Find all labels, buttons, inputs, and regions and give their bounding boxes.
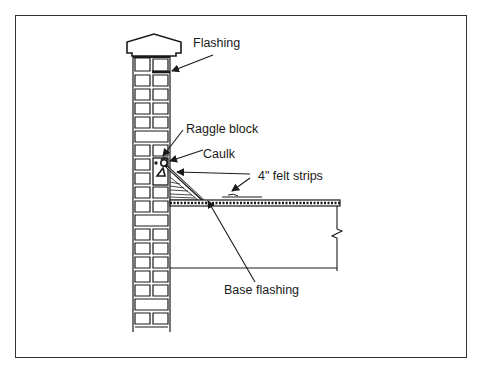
- roof-deck: [170, 200, 340, 206]
- leader-flashing: [172, 55, 213, 71]
- figure-frame: [16, 16, 467, 358]
- leader-base-flashing: [208, 201, 255, 282]
- leader-lines: [163, 55, 255, 282]
- leader-felt-strips-1: [177, 172, 250, 174]
- parapet-wall: [133, 56, 170, 332]
- base-flashing: [165, 165, 208, 204]
- coping-cap: [127, 34, 181, 56]
- parapet-flashing-diagram: Flashing Raggle block Caulk 4" felt stri…: [0, 0, 478, 370]
- label-felt-strips: 4" felt strips: [258, 169, 323, 183]
- label-flashing: Flashing: [193, 36, 240, 50]
- leader-raggle-block: [163, 130, 183, 156]
- roof-structure: [170, 206, 342, 271]
- brick-courses: [135, 58, 168, 327]
- label-raggle-block: Raggle block: [186, 122, 259, 136]
- caulk-bead: [161, 158, 168, 166]
- label-caulk: Caulk: [203, 147, 236, 161]
- leader-felt-strips-2: [232, 178, 250, 191]
- felt-strip: [222, 194, 262, 197]
- cant-strip: [170, 177, 198, 200]
- label-base-flashing: Base flashing: [224, 283, 299, 297]
- leader-caulk: [170, 150, 203, 161]
